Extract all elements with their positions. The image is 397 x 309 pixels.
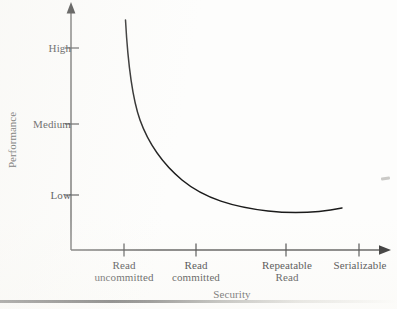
page-divider-rule — [0, 300, 397, 303]
y-tick-label-medium: Medium — [33, 118, 71, 130]
x-category-serializable: Serializable — [333, 259, 386, 271]
performance-curve-line — [126, 20, 343, 212]
x-category-line: Read — [262, 271, 312, 283]
x-category-line: Repeatable — [262, 259, 312, 271]
figure-container: High Medium Low Performance Read uncommi… — [0, 0, 397, 309]
x-category-line: Read — [172, 259, 220, 271]
x-category-line: Read — [94, 259, 153, 271]
x-axis-title: Security — [213, 288, 250, 300]
y-tick-label-low: Low — [51, 189, 71, 201]
y-axis-arrowhead — [67, 2, 76, 14]
x-axis-arrowhead — [379, 245, 391, 254]
x-category-line: uncommitted — [94, 271, 153, 283]
y-tick-label-high: High — [49, 42, 71, 54]
x-category-read-committed: Read committed — [172, 259, 220, 283]
x-category-read-uncommitted: Read uncommitted — [94, 259, 153, 283]
x-category-line: committed — [172, 271, 220, 283]
y-axis-title: Performance — [6, 112, 18, 168]
x-category-line: Serializable — [333, 259, 386, 271]
x-category-repeatable-read: Repeatable Read — [262, 259, 312, 283]
